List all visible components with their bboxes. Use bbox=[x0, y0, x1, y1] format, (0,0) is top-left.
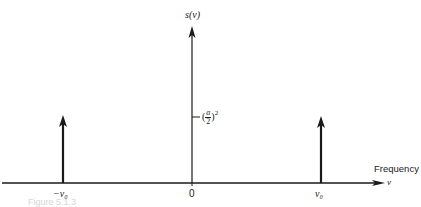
x-tick-label-pos-nu0: ν₀ bbox=[315, 189, 323, 199]
x-tick-label-zero: 0 bbox=[189, 189, 195, 199]
exponent: 2 bbox=[215, 109, 219, 117]
x-axis bbox=[2, 180, 385, 186]
impulse-pos-nu0 bbox=[317, 116, 325, 183]
figure-caption: Figure 5.1.3 bbox=[28, 198, 76, 207]
y-axis bbox=[189, 26, 201, 183]
x-axis-title: Frequency bbox=[374, 164, 419, 174]
impulse-neg-nu0 bbox=[59, 115, 67, 183]
spectrum-plot bbox=[0, 0, 421, 207]
x-axis-symbol: ν bbox=[387, 178, 391, 187]
y-axis-label: s(ν) bbox=[185, 10, 200, 20]
y-tick-label: (a2)2 bbox=[202, 109, 218, 126]
